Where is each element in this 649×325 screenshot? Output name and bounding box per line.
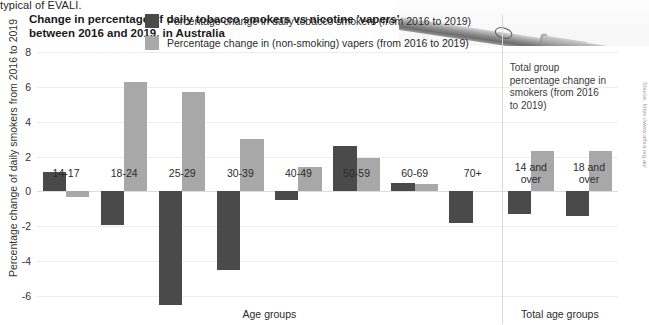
- x-axis-category-label: 18 andover: [573, 161, 605, 185]
- bar-smokers[interactable]: [275, 191, 298, 200]
- legend-item-smokers: Percentage change in daily tobacco smoke…: [145, 10, 475, 32]
- legend-label-smokers: Percentage change in daily tobacco smoke…: [167, 15, 471, 27]
- annotation-line: percentage change in: [510, 75, 610, 88]
- bar-group: 40-49: [269, 52, 327, 296]
- bar-group: 30-39: [211, 52, 269, 296]
- bar-smokers[interactable]: [217, 191, 240, 269]
- y-axis-tick-label: -4: [22, 255, 31, 267]
- bar-smokers[interactable]: [391, 183, 414, 192]
- bar-vapers[interactable]: [415, 184, 438, 191]
- chart-legend: Percentage change in daily tobacco smoke…: [145, 10, 475, 54]
- bar-smokers[interactable]: [101, 191, 124, 224]
- x-axis-category-label: 25-29: [169, 167, 196, 179]
- grid-line: [37, 296, 618, 297]
- legend-swatch-smokers: [145, 14, 159, 28]
- y-axis-tick-label: -2: [22, 220, 31, 232]
- bar-smokers[interactable]: [566, 191, 589, 215]
- chart-container: Percentage change of daily smokers from …: [0, 12, 636, 317]
- section-divider: [502, 14, 503, 324]
- y-axis-tick-label: 8: [25, 46, 31, 58]
- annotation-line: smokers (from 2016: [510, 87, 610, 100]
- y-axis-tick-label: -6: [22, 290, 31, 302]
- x-axis-category-label: 14 andover: [515, 161, 547, 185]
- annotation-line: Total group: [510, 62, 610, 75]
- x-axis-label-total-age-groups: Total age groups: [521, 308, 599, 320]
- x-axis-category-label: 60-69: [401, 167, 428, 179]
- bar-smokers[interactable]: [449, 191, 472, 222]
- x-axis-label-age-groups: Age groups: [243, 308, 297, 320]
- legend-swatch-vapers: [145, 36, 159, 50]
- bar-group: 25-29: [153, 52, 211, 296]
- x-axis-category-label: 50-59: [343, 167, 370, 179]
- bar-group: 70+: [444, 52, 502, 296]
- bar-smokers[interactable]: [159, 191, 182, 304]
- legend-item-vapers: Percentage change in (non-smoking) vaper…: [145, 32, 475, 54]
- legend-label-vapers: Percentage change in (non-smoking) vaper…: [167, 37, 469, 49]
- annotation-line: to 2019): [510, 100, 610, 113]
- bar-group: 14-17: [37, 52, 95, 296]
- x-axis-category-label: 70+: [464, 167, 482, 179]
- bar-group: 50-59: [328, 52, 386, 296]
- bar-smokers[interactable]: [508, 191, 531, 214]
- article-snippet-text: typical of EVALI.: [0, 0, 82, 12]
- bar-vapers[interactable]: [66, 191, 89, 196]
- x-axis-category-label: 14-17: [53, 167, 80, 179]
- bar-vapers[interactable]: [240, 139, 263, 191]
- x-axis-category-label: 40-49: [285, 167, 312, 179]
- y-axis-tick-label: 0: [25, 185, 31, 197]
- x-axis-category-label: 30-39: [227, 167, 254, 179]
- y-axis-tick-label: 6: [25, 81, 31, 93]
- y-axis-tick-label: 2: [25, 151, 31, 163]
- x-axis-category-label: 18-24: [111, 167, 138, 179]
- y-axis-label: Percentage change of daily smokers from …: [7, 18, 19, 278]
- y-axis-tick-label: 4: [25, 116, 31, 128]
- source-attribution: Source: https://www.athra.org.au/: [642, 82, 648, 168]
- total-group-annotation: Total grouppercentage change insmokers (…: [510, 62, 610, 112]
- bar-group: 18-24: [95, 52, 153, 296]
- bar-group: 60-69: [386, 52, 444, 296]
